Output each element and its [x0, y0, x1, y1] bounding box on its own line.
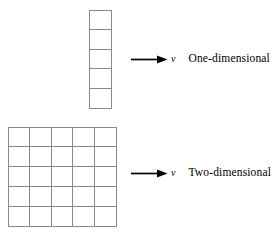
grid-cell [95, 147, 117, 167]
grid-cell [8, 127, 30, 147]
grid-cell [30, 187, 52, 207]
two-dimensional-label: Two-dimensional [188, 167, 271, 179]
right-arrow-icon [131, 54, 168, 65]
figure-canvas: v One-dimensional v [0, 0, 279, 237]
grid-cell [95, 207, 117, 227]
grid-cell [73, 187, 95, 207]
grid-cell [8, 187, 30, 207]
right-arrow-icon [131, 168, 168, 179]
grid-cell [89, 69, 112, 89]
one-dimensional-grid [89, 10, 112, 109]
two-dimensional-grid [8, 127, 117, 227]
one-dimensional-label: One-dimensional [188, 53, 269, 65]
grid-cell [73, 127, 95, 147]
grid-cell [8, 167, 30, 187]
grid-cell [89, 30, 112, 50]
grid-cell [95, 127, 117, 147]
grid-cell [52, 207, 74, 227]
grid-cell [95, 187, 117, 207]
grid-cell [30, 127, 52, 147]
two-dimensional-annotation: v Two-dimensional [131, 165, 271, 181]
one-dimensional-annotation: v One-dimensional [131, 51, 270, 67]
grid-cell [89, 50, 112, 70]
grid-cell [30, 147, 52, 167]
grid-cell [73, 207, 95, 227]
grid-cell [52, 127, 74, 147]
grid-cell [30, 207, 52, 227]
grid-cell [89, 89, 112, 109]
grid-cell [95, 167, 117, 187]
grid-cell [52, 187, 74, 207]
grid-cell [52, 147, 74, 167]
grid-cell [73, 167, 95, 187]
grid-cell [89, 10, 112, 30]
grid-cell [52, 167, 74, 187]
grid-cell [8, 207, 30, 227]
grid-cell [30, 167, 52, 187]
velocity-symbol: v [171, 54, 175, 64]
velocity-symbol: v [171, 168, 175, 178]
grid-cell [73, 147, 95, 167]
grid-cell [8, 147, 30, 167]
